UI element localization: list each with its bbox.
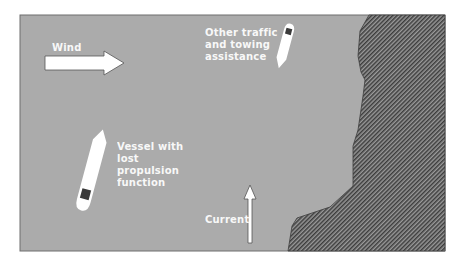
other-traffic-label: Other traffic and towing assistance: [205, 27, 278, 63]
current-label: Current: [205, 214, 249, 226]
vessel-label-line-4: function: [117, 177, 183, 189]
other-traffic-label-line-2: and towing: [205, 39, 278, 51]
wind-label: Wind: [52, 42, 82, 54]
vessel-label-line-3: propulsion: [117, 165, 183, 177]
vessel-label-line-2: lost: [117, 153, 183, 165]
other-traffic-label-line-1: Other traffic: [205, 27, 278, 39]
other-traffic-label-line-3: assistance: [205, 51, 278, 63]
vessel-lost-propulsion-label: Vessel with lost propulsion function: [117, 141, 183, 189]
vessel-label-line-1: Vessel with: [117, 141, 183, 153]
